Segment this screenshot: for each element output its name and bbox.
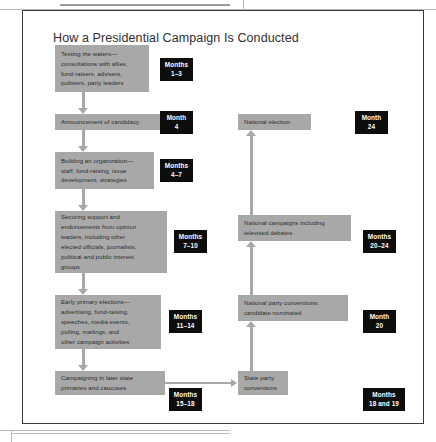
month-badge-national-election: Month 24 xyxy=(355,111,388,134)
month-badge-national-party-conventions: Month 20 xyxy=(363,310,396,333)
box-line: consultations with allies, xyxy=(61,59,128,69)
box-line: advertising, fund-raising, xyxy=(61,307,130,317)
box-line: other campaign activities xyxy=(61,337,130,347)
month-badge-building-an-organization: Months 4–7 xyxy=(160,159,193,182)
badge-line: 24 xyxy=(368,123,375,132)
month-badge-securing-support: Months 7–10 xyxy=(174,230,207,253)
process-box-testing-the-waters: Testing the waters— consultations with a… xyxy=(55,45,149,92)
scan-rule-bottom-line2 xyxy=(12,433,230,434)
month-badge-national-campaigns: Months 20–24 xyxy=(363,230,396,253)
box-line: pollsters, party leaders xyxy=(61,78,128,88)
badge-line: Months xyxy=(174,313,197,322)
process-box-early-primary-elections: Early primary elections— advertising, fu… xyxy=(55,295,161,349)
badge-line: 20–24 xyxy=(370,242,388,251)
arrow-down-5 xyxy=(78,349,88,371)
box-line: Campaigning in later state xyxy=(61,373,133,383)
box-line: Securing support and xyxy=(61,212,137,222)
badge-line: Months xyxy=(368,233,391,242)
box-line: endorsements from opinion xyxy=(61,222,137,232)
badge-line: 7–10 xyxy=(183,242,198,251)
process-box-national-party-conventions: National party conventions: candidate no… xyxy=(238,295,348,321)
box-line: primaries and caucuses xyxy=(61,383,133,393)
scan-rule-bottom-left-edge xyxy=(11,430,12,442)
badge-line: 1–3 xyxy=(171,70,182,79)
arrow-up-to-national-campaigns xyxy=(246,241,256,295)
badge-line: Months xyxy=(165,162,188,171)
box-line: polling, mailings, and xyxy=(61,327,130,337)
scan-rule-top-tick xyxy=(243,0,244,9)
month-badge-testing-the-waters: Months 1–3 xyxy=(160,58,193,81)
month-badge-later-state-primaries: Months 15–18 xyxy=(169,388,202,411)
arrow-up-to-national-election xyxy=(246,130,256,215)
box-line: Testing the waters— xyxy=(61,49,128,59)
scan-rule-bottom-line xyxy=(0,430,230,431)
process-box-announcement-of-candidacy: Announcement of candidacy xyxy=(55,114,163,130)
box-line: staff, fund-raising, issue xyxy=(61,166,133,176)
month-badge-announcement-of-candidacy: Month 4 xyxy=(160,111,193,134)
badge-line: 18 and 19 xyxy=(369,400,399,409)
arrow-right-to-state-conventions xyxy=(165,379,237,387)
process-box-state-party-conventions: State party conventions xyxy=(238,371,288,395)
month-badge-state-party-conventions: Months 18 and 19 xyxy=(363,388,405,411)
box-line: State party xyxy=(244,373,277,383)
box-line: televised debates xyxy=(244,228,325,238)
box-line: conventions xyxy=(244,383,277,393)
arrow-up-to-national-party-conventions xyxy=(246,321,256,371)
scan-rule-top-heading xyxy=(60,4,230,6)
box-line: fund-raisers, advisers, xyxy=(61,69,128,79)
arrow-down-3 xyxy=(78,189,88,211)
badge-line: 15–18 xyxy=(176,400,194,409)
box-line: political and public interest xyxy=(61,252,137,262)
box-line: National party conventions: xyxy=(244,298,319,308)
box-line: candidate nominated xyxy=(244,308,319,318)
badge-line: Months xyxy=(179,233,202,242)
box-line: speeches, media events, xyxy=(61,317,130,327)
box-line: Building an organization— xyxy=(61,156,133,166)
figure-title: How a Presidential Campaign Is Conducted xyxy=(53,31,299,45)
month-badge-early-primary-elections: Months 11–14 xyxy=(169,310,202,333)
box-line: elected officials, journalists, xyxy=(61,242,137,252)
process-box-national-campaigns: National campaigns including televised d… xyxy=(238,215,351,241)
box-line: development, strategies xyxy=(61,175,133,185)
process-box-national-election: National election xyxy=(238,114,311,130)
arrow-down-4 xyxy=(78,273,88,295)
badge-line: Months xyxy=(372,391,395,400)
process-box-later-state-primaries: Campaigning in later state primaries and… xyxy=(55,371,165,395)
badge-line: 4 xyxy=(175,123,179,132)
figure-container: How a Presidential Campaign Is Conducted… xyxy=(22,10,424,424)
box-line: groups xyxy=(61,262,137,272)
process-box-securing-support: Securing support and endorsements from o… xyxy=(55,211,167,273)
badge-line: 4–7 xyxy=(171,171,182,180)
box-line: Early primary elections— xyxy=(61,297,130,307)
badge-line: Month xyxy=(167,114,187,123)
process-box-building-an-organization: Building an organization— staff, fund-ra… xyxy=(55,152,154,189)
badge-line: Month xyxy=(362,114,382,123)
box-line: National election xyxy=(244,117,290,127)
badge-line: Months xyxy=(165,61,188,70)
box-line: Announcement of candidacy xyxy=(61,117,139,127)
box-line: leaders, including other xyxy=(61,232,137,242)
badge-line: 11–14 xyxy=(177,322,195,331)
box-line: National campaigns including xyxy=(244,218,325,228)
badge-line: 20 xyxy=(376,322,383,331)
badge-line: Month xyxy=(370,313,390,322)
badge-line: Months xyxy=(174,391,197,400)
arrow-down-1 xyxy=(78,92,88,114)
arrow-down-2 xyxy=(78,130,88,152)
